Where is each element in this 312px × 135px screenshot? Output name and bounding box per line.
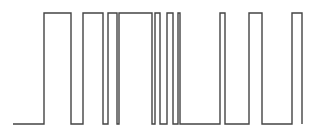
waveform-diagram [0, 0, 312, 135]
square-wave-plot [0, 0, 312, 135]
square-wave-trace [13, 13, 302, 124]
